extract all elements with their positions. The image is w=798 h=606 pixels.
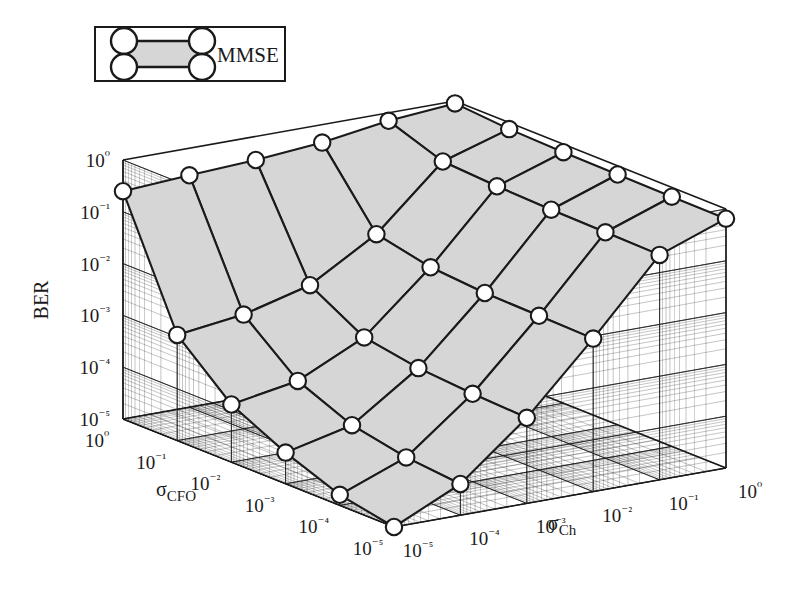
legend-marker-icon [111, 28, 137, 54]
legend-box[interactable]: MMSE [95, 27, 285, 81]
legend-marker-icon [189, 28, 215, 54]
legend-marker-icon [111, 54, 137, 80]
legend-entry-label: MMSE [217, 43, 279, 67]
legend-layer: MMSE [0, 0, 798, 606]
ber-surface-figure: 10⁰10⁻¹10⁻²10⁻³10⁻⁴10⁻⁵BER10⁰10⁻¹10⁻²10⁻… [0, 0, 798, 606]
legend-marker-icon [189, 54, 215, 80]
